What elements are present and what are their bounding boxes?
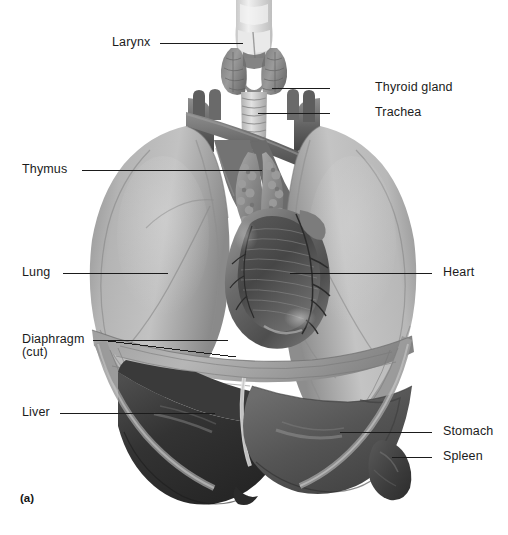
label-trachea-text: Trachea xyxy=(375,105,421,119)
larynx-structure xyxy=(236,0,273,58)
label-lung: Lung xyxy=(22,266,50,279)
label-liver: Liver xyxy=(22,406,50,419)
label-thyroid-gland-text: Thyroid gland xyxy=(375,80,453,94)
thyroid-gland-structure xyxy=(221,48,287,99)
label-thyroid-gland: Thyroid gland xyxy=(375,81,453,94)
spleen-structure xyxy=(368,440,411,500)
label-trachea: Trachea xyxy=(375,106,421,119)
label-diaphragm-cut: Diaphragm (cut) xyxy=(22,333,85,359)
label-stomach-text: Stomach xyxy=(443,424,493,438)
anatomy-figure: Larynx Thyroid gland Trachea Thymus Lung… xyxy=(0,0,508,535)
label-spleen: Spleen xyxy=(443,450,483,463)
label-thymus: Thymus xyxy=(22,163,67,176)
label-liver-text: Liver xyxy=(22,405,50,419)
label-lung-text: Lung xyxy=(22,265,50,279)
label-diaphragm-text: Diaphragm xyxy=(22,332,85,346)
label-diaphragm-cut-text: (cut) xyxy=(22,346,85,359)
heart-structure xyxy=(225,208,330,349)
label-stomach: Stomach xyxy=(443,425,493,438)
label-larynx: Larynx xyxy=(112,36,150,49)
label-thymus-text: Thymus xyxy=(22,162,67,176)
panel-letter: (a) xyxy=(20,492,34,504)
label-spleen-text: Spleen xyxy=(443,449,483,463)
label-larynx-text: Larynx xyxy=(112,35,150,49)
label-heart-text: Heart xyxy=(443,265,474,279)
label-heart: Heart xyxy=(443,266,474,279)
